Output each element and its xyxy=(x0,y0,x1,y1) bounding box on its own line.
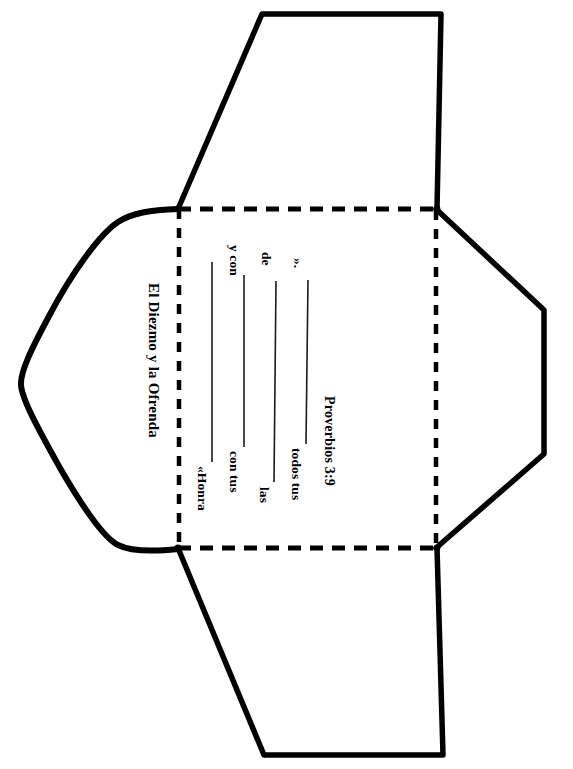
verse-line-1-prefix: «Honra xyxy=(196,466,210,511)
fold-corner-bottom-left xyxy=(175,545,182,552)
envelope-template-page: El Diezmo y la Ofrenda «Honra con tus y … xyxy=(0,0,573,769)
right-flap-cut-line xyxy=(436,209,544,548)
blank-rule-3 xyxy=(274,281,276,482)
fold-corner-top-left xyxy=(175,206,182,213)
verse-line-4-suffix: ». xyxy=(292,258,306,268)
envelope-die-cut-outline xyxy=(0,0,573,769)
top-flap-cut-line xyxy=(178,14,441,209)
envelope-title: El Diezmo y la Ofrenda xyxy=(146,283,161,438)
bottom-flap-cut-line xyxy=(178,548,443,755)
fold-corner-top-right xyxy=(434,206,441,213)
verse-line-4-prefix: todos tus xyxy=(290,448,304,500)
blank-rule-4 xyxy=(306,280,308,444)
verse-line-2-suffix: y con xyxy=(228,245,242,276)
fold-corner-bottom-right xyxy=(434,545,441,552)
verse-line-2-prefix: con tus xyxy=(228,451,242,493)
verse-line-3-prefix: las xyxy=(258,487,272,503)
verse-line-3-suffix: de xyxy=(260,252,274,266)
scripture-reference: Proverbios 3:9 xyxy=(322,396,336,486)
